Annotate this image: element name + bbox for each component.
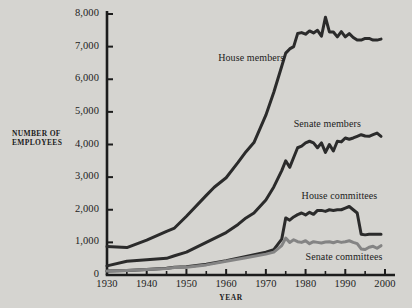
x-axis-title: YEAR	[191, 293, 271, 302]
axes-group	[106, 11, 395, 275]
y-axis-tick-label: 5,000	[57, 105, 99, 116]
y-axis-tick-label: 7,000	[57, 40, 99, 51]
x-axis-tick-label: 1990	[325, 278, 365, 289]
x-axis-tick-label: 1940	[127, 278, 167, 289]
y-axis-tick-label: 3,000	[57, 170, 99, 181]
x-axis-tick-label: 1980	[286, 278, 326, 289]
y-axis-tick-label: 2,000	[57, 203, 99, 214]
series-label-house-members: House members	[218, 52, 284, 63]
x-axis-tick-label: 2000	[365, 278, 405, 289]
chart-container: NUMBER OF EMPLOYEES YEAR 01,0002,0003,00…	[0, 0, 412, 308]
x-axis-tick-label: 1930	[87, 278, 127, 289]
y-axis-tick-label: 1,000	[57, 235, 99, 246]
x-axis-tick-label: 1970	[246, 278, 286, 289]
y-axis-tick-label: 6,000	[57, 72, 99, 83]
series-label-senate-members: Senate members	[294, 118, 361, 129]
x-axis-tick-label: 1960	[206, 278, 246, 289]
series-label-house-committees: House committees	[302, 190, 378, 201]
y-axis-tick-label: 8,000	[57, 7, 99, 18]
y-axis-tick-label: 4,000	[57, 138, 99, 149]
series-label-senate-committees: Senate committees	[306, 251, 383, 262]
x-axis-tick-label: 1950	[166, 278, 206, 289]
